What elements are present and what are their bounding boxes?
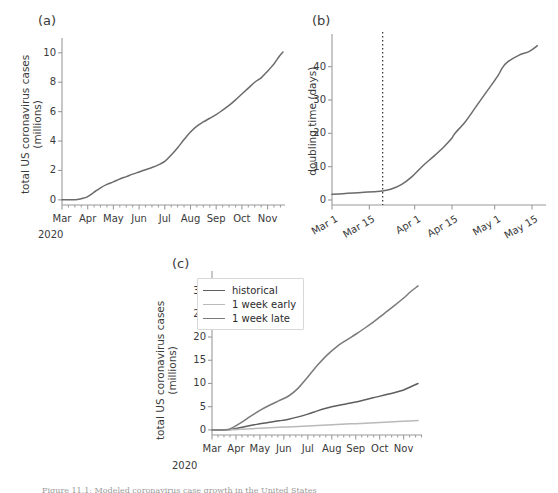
panel-a-ytick-10: 10 xyxy=(32,47,56,58)
panel-c-ytick-10: 10 xyxy=(182,377,206,388)
panel-a: (a) total US coronavirus cases (millions… xyxy=(0,0,290,250)
panel-a-ytick-4: 4 xyxy=(32,135,56,146)
panel-b-ytick-40: 40 xyxy=(302,61,326,72)
panel-a-xtick-may: May xyxy=(101,213,125,224)
legend-item-historical: historical xyxy=(203,283,296,297)
legend-swatch-one-week-early xyxy=(203,304,225,305)
legend-label-historical: historical xyxy=(232,285,278,296)
panel-c-legend: historical 1 week early 1 week late xyxy=(197,278,304,330)
panel-c-ytick-15: 15 xyxy=(182,354,206,365)
panel-c-xtick-nov: Nov xyxy=(392,443,416,454)
panel-c: (c) total US coronavirus cases (millions… xyxy=(150,253,440,483)
panel-a-ytick-0: 0 xyxy=(32,194,56,205)
panel-c-ytick-5: 5 xyxy=(182,401,206,412)
panel-c-xtick-apr: Apr xyxy=(224,443,248,454)
panel-c-xtick-jul: Jul xyxy=(296,443,320,454)
panel-a-xtick-nov: Nov xyxy=(256,213,280,224)
legend-label-one-week-late: 1 week late xyxy=(232,313,290,324)
legend-swatch-one-week-late xyxy=(203,318,225,319)
panel-b-ytick-10: 10 xyxy=(302,161,326,172)
panel-a-xtick-mar: Mar xyxy=(50,213,74,224)
panel-c-xtick-sep: Sep xyxy=(344,443,368,454)
panel-c-ytick-0: 0 xyxy=(182,424,206,435)
panel-c-xtick-mar: Mar xyxy=(200,443,224,454)
panel-c-xtick-oct: Oct xyxy=(368,443,392,454)
panel-b-ytick-30: 30 xyxy=(302,94,326,105)
panel-a-xtick-apr: Apr xyxy=(76,213,100,224)
panel-a-xtick-aug: Aug xyxy=(178,213,202,224)
panel-c-xtick-may: May xyxy=(248,443,272,454)
legend-item-one-week-late: 1 week late xyxy=(203,311,296,325)
panel-a-ytick-2: 2 xyxy=(32,164,56,175)
panel-a-ytick-6: 6 xyxy=(32,106,56,117)
panel-a-ytick-8: 8 xyxy=(32,76,56,87)
panel-b: (b) doubling time (days) 010203040 Mar 1… xyxy=(290,0,558,255)
panel-c-xtick-sublabel: 2020 xyxy=(172,460,197,471)
figure-caption: Figure 11.1: Modeled coronavirus case gr… xyxy=(42,486,462,493)
panel-a-xtick-jul: Jul xyxy=(153,213,177,224)
panel-a-xtick-jun: Jun xyxy=(127,213,151,224)
legend-label-one-week-early: 1 week early xyxy=(232,299,296,310)
panel-b-ytick-20: 20 xyxy=(302,127,326,138)
legend-swatch-historical xyxy=(203,290,225,291)
panel-a-xtick-sep: Sep xyxy=(204,213,228,224)
panel-a-xtick-oct: Oct xyxy=(230,213,254,224)
legend-item-one-week-early: 1 week early xyxy=(203,297,296,311)
panel-a-xtick-sublabel: 2020 xyxy=(38,229,63,240)
panel-c-ytick-20: 20 xyxy=(182,331,206,342)
panel-b-ytick-0: 0 xyxy=(302,194,326,205)
panel-c-xtick-aug: Aug xyxy=(320,443,344,454)
panel-c-xtick-jun: Jun xyxy=(272,443,296,454)
